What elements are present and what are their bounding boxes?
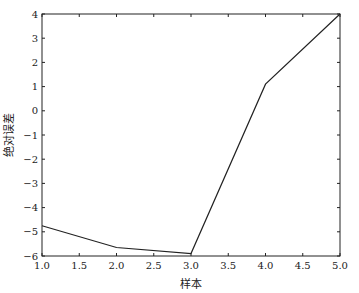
y-tick-label: −5 (23, 226, 38, 237)
y-tick-label: 1 (32, 81, 38, 92)
x-axis-label: 样本 (180, 277, 202, 291)
plot-frame (42, 14, 340, 256)
x-tick-label: 2.5 (146, 260, 162, 271)
x-tick-label: 3.5 (220, 260, 236, 271)
x-tick-label: 1.5 (71, 260, 87, 271)
x-tick-label: 4.5 (295, 260, 311, 271)
y-tick-label: −6 (23, 251, 38, 262)
y-tick-label: 2 (32, 57, 38, 68)
y-tick-label: 3 (32, 33, 38, 44)
y-axis: 43210−1−2−3−4−5−6 (23, 9, 340, 262)
y-tick-label: −4 (23, 202, 38, 213)
line-chart: 1.01.52.02.53.03.54.04.55.0 43210−1−2−3−… (0, 0, 359, 293)
x-axis: 1.01.52.02.53.03.54.04.55.0 (34, 14, 348, 271)
x-tick-label: 2.0 (109, 260, 125, 271)
x-tick-label: 5.0 (332, 260, 348, 271)
y-tick-label: −1 (23, 130, 38, 141)
x-tick-label: 1.0 (34, 260, 50, 271)
y-tick-label: 4 (32, 9, 38, 20)
x-tick-label: 4.0 (258, 260, 274, 271)
y-tick-label: −3 (23, 178, 38, 189)
y-tick-label: −2 (23, 154, 38, 165)
data-series (42, 14, 340, 254)
y-tick-label: 0 (32, 105, 38, 116)
series-line (42, 14, 340, 254)
y-axis-label: 绝对误差 (2, 113, 16, 157)
x-tick-label: 3.0 (183, 260, 199, 271)
